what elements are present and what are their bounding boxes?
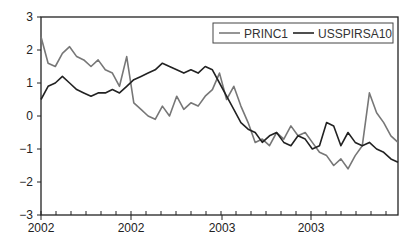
line-chart: 3 2 1 0 −1 −2 −3 2002 2002 2003 2003 PRI… <box>0 0 411 246</box>
y-tick-label: −2 <box>19 175 33 189</box>
x-tick-label: 2002 <box>118 221 145 235</box>
y-tick-label: −1 <box>19 142 33 156</box>
y-tick-label: −3 <box>19 208 33 222</box>
y-tick-label: 2 <box>26 43 33 57</box>
legend-label-princ1: PRINC1 <box>244 27 288 41</box>
y-tick-label: 1 <box>26 76 33 90</box>
plot-frame <box>41 17 398 215</box>
y-axis: 3 2 1 0 −1 −2 −3 <box>19 10 41 222</box>
y-tick-label: 0 <box>26 109 33 123</box>
legend: PRINC1 USSPIRSA10 <box>213 23 393 43</box>
x-tick-label: 2003 <box>209 221 236 235</box>
x-tick-label: 2002 <box>28 221 55 235</box>
legend-label-usspirsa10: USSPIRSA10 <box>318 27 392 41</box>
y-tick-label: 3 <box>26 10 33 24</box>
x-tick-label: 2003 <box>298 221 325 235</box>
